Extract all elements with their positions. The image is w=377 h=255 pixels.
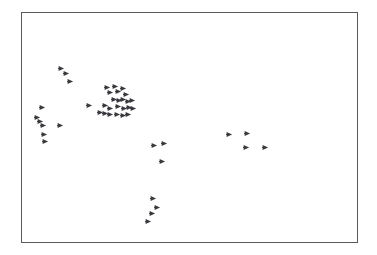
scatter-plot-figure (0, 0, 377, 255)
scatter-point-marker (126, 104, 133, 111)
scatter-point-marker (130, 105, 137, 112)
scatter-point-marker (86, 102, 93, 109)
scatter-point-marker (159, 158, 166, 165)
scatter-point-marker (145, 218, 152, 225)
scatter-point-marker (42, 138, 49, 145)
scatter-point-marker (115, 88, 122, 95)
scatter-point-marker (112, 83, 119, 90)
scatter-point-marker (151, 142, 158, 149)
scatter-point-marker (115, 103, 122, 110)
scatter-point-marker (111, 96, 118, 103)
scatter-point-marker (97, 109, 104, 116)
scatter-point-marker (107, 111, 114, 118)
scatter-point-marker (104, 84, 111, 91)
scatter-point-marker (226, 131, 233, 138)
scatter-point-marker (120, 112, 127, 119)
plot-data-area (22, 13, 357, 242)
scatter-point-marker (120, 85, 127, 92)
scatter-point-marker (39, 104, 46, 111)
scatter-point-marker (57, 122, 64, 129)
scatter-point-marker (150, 195, 157, 202)
scatter-point-marker (63, 70, 70, 77)
scatter-point-marker (114, 111, 121, 118)
scatter-point-marker (102, 110, 109, 117)
scatter-point-marker (244, 130, 251, 137)
scatter-point-marker (37, 118, 44, 125)
scatter-point-marker (161, 140, 168, 147)
scatter-point-marker (107, 89, 114, 96)
scatter-point-marker (125, 111, 132, 118)
scatter-point-marker (34, 114, 41, 121)
scatter-point-marker (107, 105, 114, 112)
scatter-point-marker (40, 122, 47, 129)
scatter-point-marker (41, 131, 48, 138)
scatter-point-marker (149, 210, 156, 217)
scatter-point-marker (129, 97, 136, 104)
scatter-point-marker (67, 78, 74, 85)
scatter-point-marker (116, 97, 123, 104)
plot-frame-border (21, 12, 358, 243)
scatter-point-marker (262, 144, 269, 151)
scatter-point-marker (58, 65, 65, 72)
scatter-point-marker (120, 96, 127, 103)
scatter-point-marker (125, 98, 132, 105)
scatter-point-marker (102, 102, 109, 109)
scatter-point-marker (121, 105, 128, 112)
scatter-point-marker (154, 204, 161, 211)
scatter-point-marker (123, 91, 130, 98)
scatter-point-marker (243, 144, 250, 151)
